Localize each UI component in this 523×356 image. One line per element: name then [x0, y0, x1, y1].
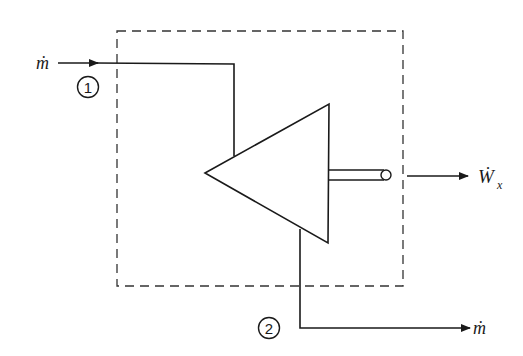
- state-2-marker: 2: [259, 318, 280, 339]
- svg-text:Ẇ: Ẇ: [478, 166, 496, 187]
- outlet-mass-flow-label: ṁ: [473, 318, 486, 338]
- state-1-marker: 1: [78, 77, 99, 98]
- outlet-flow-line: [300, 229, 470, 328]
- work-rate-label: Ẇ x: [478, 166, 503, 192]
- svg-text:1: 1: [84, 79, 92, 96]
- svg-text:x: x: [496, 178, 503, 192]
- turbine-diagram: 1 2 ṁ ṁ Ẇ x: [0, 0, 523, 356]
- shaft-icon: [329, 170, 391, 180]
- svg-text:2: 2: [265, 320, 273, 337]
- turbine-icon: [205, 104, 329, 243]
- inlet-mass-flow-label: ṁ: [36, 53, 49, 73]
